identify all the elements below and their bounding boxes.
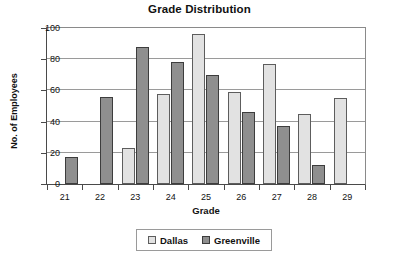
bar-greenville-24 xyxy=(171,62,184,184)
bar-group xyxy=(259,28,294,184)
legend-swatch-greenville-icon xyxy=(202,236,210,244)
x-tick-mark xyxy=(188,185,189,190)
bar-group xyxy=(224,28,259,184)
x-tick-mark xyxy=(294,185,295,190)
y-tick-mark xyxy=(41,59,46,60)
x-tick-label-28: 28 xyxy=(294,192,330,202)
x-tick-label-22: 22 xyxy=(82,192,118,202)
x-tick-mark xyxy=(365,185,366,190)
y-tick-mark xyxy=(41,90,46,91)
bar-greenville-22 xyxy=(100,97,113,184)
legend-item-dallas[interactable]: Dallas xyxy=(148,235,188,246)
x-tick-mark xyxy=(153,185,154,190)
bar-group xyxy=(82,28,117,184)
x-tick-label-23: 23 xyxy=(117,192,153,202)
legend-label-dallas: Dallas xyxy=(160,235,188,246)
x-tick-label-26: 26 xyxy=(223,192,259,202)
legend-item-greenville[interactable]: Greenville xyxy=(202,235,260,246)
y-axis-label: No. of Employees xyxy=(9,51,19,171)
x-tick-mark xyxy=(82,185,83,190)
x-tick-mark xyxy=(330,185,331,190)
bar-dallas-28 xyxy=(298,114,311,184)
x-axis-label: Grade xyxy=(46,205,366,216)
bar-group xyxy=(47,28,82,184)
x-tick-mark xyxy=(259,185,260,190)
grade-distribution-chart: Grade Distribution No. of Employees 0204… xyxy=(0,0,399,265)
bar-greenville-27 xyxy=(277,126,290,184)
x-tick-label-24: 24 xyxy=(153,192,189,202)
y-tick-mark xyxy=(41,153,46,154)
x-tick-label-29: 29 xyxy=(329,192,365,202)
x-tick-label-21: 21 xyxy=(47,192,83,202)
x-tick-label-27: 27 xyxy=(259,192,295,202)
bar-greenville-21 xyxy=(65,157,78,184)
legend-swatch-dallas-icon xyxy=(148,236,156,244)
bar-greenville-28 xyxy=(312,165,325,184)
bar-group xyxy=(294,28,329,184)
chart-legend: Dallas Greenville xyxy=(136,229,272,251)
x-tick-mark xyxy=(118,185,119,190)
bar-dallas-29 xyxy=(334,98,347,184)
bar-greenville-23 xyxy=(136,47,149,184)
bar-group xyxy=(330,28,365,184)
legend-label-greenville: Greenville xyxy=(214,235,260,246)
x-tick-label-25: 25 xyxy=(188,192,224,202)
bar-dallas-23 xyxy=(122,148,135,184)
y-tick-mark xyxy=(41,184,46,185)
chart-title: Grade Distribution xyxy=(0,3,399,15)
bar-dallas-27 xyxy=(263,64,276,184)
bar-greenville-25 xyxy=(206,75,219,184)
bar-group xyxy=(153,28,188,184)
y-tick-mark xyxy=(41,122,46,123)
bar-group xyxy=(188,28,223,184)
bar-dallas-24 xyxy=(157,94,170,184)
x-tick-mark xyxy=(224,185,225,190)
bar-group xyxy=(118,28,153,184)
bar-dallas-26 xyxy=(228,92,241,184)
y-tick-mark xyxy=(41,28,46,29)
bar-dallas-25 xyxy=(192,34,205,184)
bar-greenville-26 xyxy=(242,112,255,184)
x-tick-mark xyxy=(47,185,48,190)
bars-container xyxy=(47,28,365,184)
